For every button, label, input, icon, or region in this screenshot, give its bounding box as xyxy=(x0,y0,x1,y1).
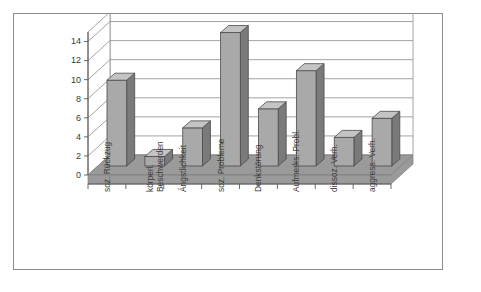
bar-side-face-4 xyxy=(278,102,286,166)
bar-front-face-3 xyxy=(221,33,241,166)
ytick-label-0: 0 xyxy=(76,170,81,180)
bar-front-face-2 xyxy=(183,128,203,166)
ytick-label-8: 8 xyxy=(76,94,81,104)
bar-7 xyxy=(372,111,400,166)
bar-front-face-6 xyxy=(334,137,354,166)
bar-side-face-3 xyxy=(240,26,248,166)
ytick-label-10: 10 xyxy=(71,75,81,85)
bar-front-face-5 xyxy=(296,71,316,166)
ytick-label-12: 12 xyxy=(71,55,81,65)
bar-side-face-5 xyxy=(316,64,324,166)
figure-page: 02468101214 soz. Rückzugkörperl.Beschwer… xyxy=(0,0,481,292)
bar-front-face-1 xyxy=(145,156,165,166)
ytick-label-4: 4 xyxy=(76,132,81,142)
ytick-label-6: 6 xyxy=(76,113,81,123)
ytick-label-2: 2 xyxy=(76,151,81,161)
ytick-label-14: 14 xyxy=(71,36,81,46)
bar-chart: 02468101214 soz. Rückzugkörperl.Beschwer… xyxy=(14,14,444,271)
bar-5 xyxy=(296,64,324,166)
figure-frame: 02468101214 soz. Rückzugkörperl.Beschwer… xyxy=(13,13,443,270)
bar-front-face-4 xyxy=(258,109,278,166)
bar-side-face-7 xyxy=(392,111,400,166)
bar-2 xyxy=(183,121,211,166)
bar-6 xyxy=(334,130,362,166)
bar-4 xyxy=(258,102,286,166)
bar-side-face-2 xyxy=(202,121,210,166)
plot-floor-top xyxy=(88,155,413,175)
bar-front-face-0 xyxy=(107,80,127,166)
chart-canvas: 02468101214 xyxy=(14,14,444,271)
bar-0 xyxy=(107,73,135,166)
bar-front-face-7 xyxy=(372,118,392,166)
bar-side-face-0 xyxy=(127,73,135,166)
bar-3 xyxy=(221,26,249,166)
